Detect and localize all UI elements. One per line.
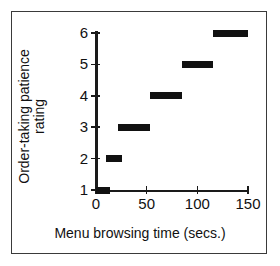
- y-axis-title: Order-taking patience rating: [17, 21, 48, 211]
- x-axis-tick: [247, 186, 249, 194]
- x-axis-tick-label: 50: [127, 196, 167, 211]
- y-axis-tick: [91, 32, 100, 34]
- data-bar: [213, 30, 248, 37]
- x-axis-tick-label: 0: [76, 196, 116, 211]
- y-axis-line: [95, 31, 98, 192]
- y-axis-tick-label-text: 5: [64, 56, 88, 71]
- y-axis-tick-label-text: 2: [64, 151, 88, 166]
- y-axis-tick-label-text: 1: [64, 182, 88, 197]
- x-axis-tick: [197, 186, 199, 194]
- y-axis-tick: [91, 126, 100, 128]
- x-axis-tick-label: 100: [177, 196, 217, 211]
- y-axis-tick: [91, 64, 100, 66]
- y-axis-tick-label-text: 6: [64, 25, 88, 40]
- y-axis-tick-label: 3: [64, 119, 88, 135]
- y-axis-title-line2: rating: [32, 21, 47, 211]
- y-axis-tick-label-text: 4: [64, 88, 88, 103]
- data-bar: [150, 92, 182, 99]
- y-axis-tick-label-text: 3: [64, 119, 88, 134]
- data-bar: [96, 187, 110, 194]
- data-bar: [182, 61, 212, 68]
- x-axis-tick-label: 150: [228, 196, 268, 211]
- y-axis-tick-label: 2: [64, 151, 88, 167]
- chart-page: 123456 050100150 Menu browsing time (sec…: [0, 0, 280, 266]
- plot-area: 123456 050100150 Menu browsing time (sec…: [0, 0, 280, 266]
- data-bar: [118, 124, 149, 131]
- data-bar: [106, 155, 122, 162]
- x-axis-line: [95, 190, 249, 192]
- y-axis-title-line1: Order-taking patience: [16, 49, 32, 184]
- y-axis-tick: [91, 95, 100, 97]
- y-axis-tick-label: 4: [64, 88, 88, 104]
- y-axis-tick-label: 5: [64, 56, 88, 72]
- y-axis-tick-label: 6: [64, 25, 88, 41]
- x-axis-title: Menu browsing time (secs.): [20, 225, 260, 241]
- y-axis-tick: [91, 158, 100, 160]
- x-axis-tick: [146, 186, 148, 194]
